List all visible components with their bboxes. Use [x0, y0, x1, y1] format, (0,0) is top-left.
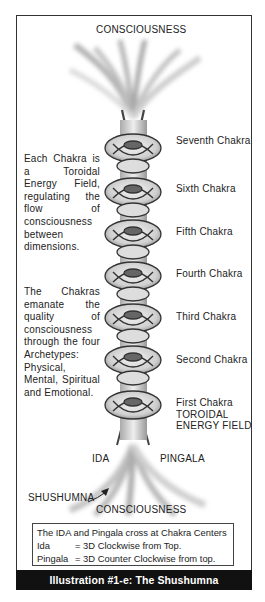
top-consciousness-label: CONSCIOUSNESS: [96, 24, 186, 35]
chakra-label-sixth: Sixth Chakra: [176, 183, 236, 194]
chakra-label-second: Second Chakra: [176, 354, 248, 365]
legend-box: The IDA and Pingala cross at Chakra Cent…: [32, 523, 234, 566]
ida-label: IDA: [92, 453, 109, 464]
top-energy-plume: [70, 40, 200, 118]
chakra-label-first: First Chakra: [176, 397, 233, 408]
legend-key-pingala: Pingala: [37, 552, 75, 565]
shushumna-label: SHUSHUMNA: [28, 492, 94, 503]
bottom-consciousness-label: CONSCIOUSNESS: [96, 504, 186, 515]
legend-title: The IDA and Pingala cross at Chakra Cent…: [37, 526, 229, 539]
note-toroidal-field: Each Chakra is a Toroidal Energy Field, …: [24, 153, 100, 254]
chakra-label-third: Third Chakra: [176, 311, 236, 322]
chakra-label-fifth: Fifth Chakra: [176, 226, 233, 237]
illustration-caption: Illustration #1-e: The Shushumna: [16, 570, 252, 590]
legend-row-pingala: Pingala= 3D Counter Clockwise from top.: [37, 552, 229, 565]
toroidal-label-line2: ENERGY FIELD: [176, 420, 252, 431]
chakra-label-fourth: Fourth Chakra: [176, 268, 243, 279]
note-archetypes: The Chakras emanate the quality of consc…: [24, 286, 100, 399]
chakra-label-seventh: Seventh Chakra: [176, 135, 251, 146]
legend-key-ida: Ida: [37, 539, 75, 552]
legend-value-ida: = 3D Clockwise from Top.: [75, 540, 181, 551]
legend-value-pingala: = 3D Counter Clockwise from top.: [75, 553, 215, 564]
legend-row-ida: Ida= 3D Clockwise from Top.: [37, 539, 229, 552]
toroidal-label-line1: TOROIDAL: [176, 409, 229, 420]
pingala-label: PINGALA: [160, 453, 205, 464]
